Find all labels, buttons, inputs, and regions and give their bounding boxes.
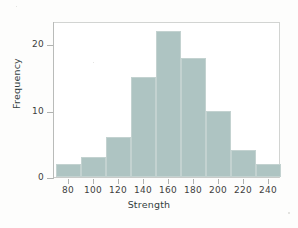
histogram-screenshot: 01020 80100120140160180200220240 Strengt… (0, 0, 298, 228)
y-axis-tick (47, 112, 53, 113)
histogram-bar (131, 77, 156, 177)
y-axis-tick-label: 10 (32, 106, 44, 116)
y-axis-tick-label: 0 (38, 172, 44, 182)
x-axis-tick (268, 179, 269, 184)
y-axis-title: Frequency (11, 37, 22, 131)
histogram-bar (181, 58, 206, 177)
scan-speck (288, 212, 290, 214)
histogram-bar (256, 164, 281, 177)
scan-speck (16, 6, 17, 7)
y-axis-tick (47, 178, 53, 179)
y-axis-tick-label: 20 (32, 39, 44, 49)
y-axis-line (53, 22, 54, 179)
histogram-bar (231, 150, 256, 177)
x-axis-tick (93, 179, 94, 184)
histogram-bar (56, 164, 81, 177)
histogram-bar (206, 111, 231, 177)
scan-speck (93, 62, 94, 63)
x-axis-tick (168, 179, 169, 184)
x-axis-title: Strength (0, 199, 298, 210)
x-axis-tick (243, 179, 244, 184)
histogram-bar (156, 31, 181, 177)
x-axis-tick (143, 179, 144, 184)
x-axis-tick (68, 179, 69, 184)
histogram-bar (106, 137, 131, 177)
x-axis-tick (218, 179, 219, 184)
x-axis-tick (118, 179, 119, 184)
plot-frame (53, 22, 280, 178)
histogram-bar (81, 157, 106, 177)
x-axis-tick (193, 179, 194, 184)
plot-area (54, 23, 279, 177)
x-axis-tick-label: 240 (253, 185, 283, 195)
y-axis-tick (47, 45, 53, 46)
